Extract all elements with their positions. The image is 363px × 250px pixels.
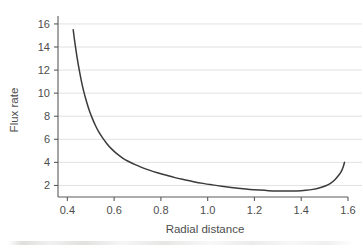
gridlines <box>58 24 362 186</box>
y-tick-label: 8 <box>44 110 50 122</box>
y-tick-label: 6 <box>44 133 50 145</box>
y-axis <box>54 16 58 197</box>
x-tick-label: 0.4 <box>60 204 75 216</box>
x-tick-label: 1.6 <box>340 204 355 216</box>
x-tick-label: 0.8 <box>153 204 168 216</box>
data-series-line <box>73 30 344 191</box>
y-tick-label: 2 <box>44 179 50 191</box>
x-tick-label: 1.4 <box>294 204 309 216</box>
y-axis-title: Flux rate <box>8 88 20 133</box>
y-tick-label: 12 <box>38 64 50 76</box>
x-tick-label: 0.6 <box>106 204 121 216</box>
y-tick-label: 14 <box>38 41 50 53</box>
x-tick-label: 1.0 <box>200 204 215 216</box>
y-tick-label: 16 <box>38 18 50 30</box>
x-tick-labels: 0.40.60.81.01.21.41.6 <box>60 204 356 216</box>
x-tick-label: 1.2 <box>247 204 262 216</box>
y-tick-label: 4 <box>44 156 50 168</box>
y-tick-labels: 246810121416 <box>38 18 50 192</box>
y-tick-label: 10 <box>38 87 50 99</box>
chart-figure: 246810121416 0.40.60.81.01.21.41.6 Flux … <box>0 0 363 250</box>
x-axis-title: Radial distance <box>166 223 245 235</box>
x-axis <box>58 197 348 201</box>
flux-rate-line-chart: 246810121416 0.40.60.81.01.21.41.6 Flux … <box>0 0 363 250</box>
